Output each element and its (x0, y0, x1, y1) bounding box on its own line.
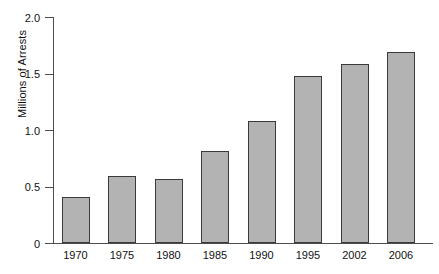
bar (248, 121, 276, 243)
x-axis-tick-label: 2002 (332, 249, 378, 261)
bar (62, 197, 90, 243)
y-axis-tick-label: 0.5 (25, 181, 40, 193)
y-axis-tick: 1.5 (45, 74, 53, 75)
y-axis-tick: 2.0 (45, 17, 53, 18)
x-axis-tick-label: 1980 (146, 249, 192, 261)
bar (201, 151, 229, 243)
y-axis-tick: 0 (45, 243, 53, 244)
x-axis-tick-label: 2006 (378, 249, 424, 261)
x-axis-tick-label: 1985 (192, 249, 238, 261)
plot-area (53, 17, 433, 243)
y-axis-tick-label: 1.5 (25, 68, 40, 80)
y-axis-tick: 0.5 (45, 187, 53, 188)
x-axis-tick-label: 1995 (285, 249, 331, 261)
x-axis-line (53, 243, 433, 244)
bar (387, 52, 415, 243)
bar (108, 176, 136, 243)
y-axis-tick-label: 0 (34, 238, 40, 250)
y-axis-tick-label: 1.0 (25, 125, 40, 137)
x-axis-tick-label: 1990 (239, 249, 285, 261)
x-axis-tick-label: 1970 (53, 249, 99, 261)
y-axis-tick-label: 2.0 (25, 12, 40, 24)
bar (155, 179, 183, 243)
bar (294, 76, 322, 243)
bar (341, 64, 369, 243)
x-axis-tick-label: 1975 (99, 249, 145, 261)
bar-chart: Millions of Arrests 00.51.01.52.0 197019… (0, 0, 439, 274)
y-axis-tick: 1.0 (45, 130, 53, 131)
